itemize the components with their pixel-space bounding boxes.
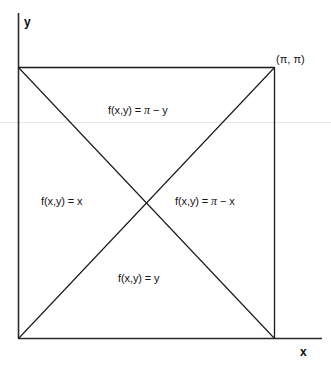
- y-axis-label: y: [24, 16, 31, 29]
- region-label-top: f(x,y) = π − y: [108, 104, 168, 117]
- paren-close: ): [301, 53, 305, 65]
- region-bottom-prefix: f(x,y) = y: [118, 272, 159, 284]
- region-label-bottom: f(x,y) = y: [118, 272, 159, 285]
- region-right-suffix: − x: [217, 195, 235, 207]
- pi-symbol-y: π: [293, 53, 301, 65]
- region-top-suffix: − y: [150, 104, 168, 116]
- corner-coordinate-label: (π, π): [276, 53, 305, 66]
- region-right-prefix: f(x,y) =: [175, 195, 211, 207]
- x-axis-label: x: [300, 346, 307, 359]
- region-top-prefix: f(x,y) =: [108, 104, 144, 116]
- region-label-right: f(x,y) = π − x: [175, 195, 235, 208]
- region-label-left: f(x,y) = x: [41, 195, 82, 208]
- region-left-prefix: f(x,y) = x: [41, 195, 82, 207]
- figure-canvas: y x (π, π) f(x,y) = π − y f(x,y) = x f(x…: [0, 0, 331, 366]
